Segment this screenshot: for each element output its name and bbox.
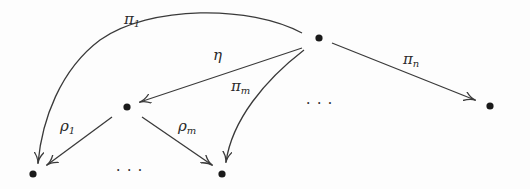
label-pim: πm [231, 79, 250, 96]
label-pi1-base: π [124, 10, 134, 28]
label-rho1-sub: 1 [69, 125, 75, 136]
node-mid [123, 103, 130, 110]
label-rhom-base: ρ [178, 117, 187, 135]
label-pim-sub: m [241, 85, 250, 96]
node-top [315, 34, 322, 41]
label-pi1-sub: 1 [134, 18, 140, 29]
label-pin-sub: n [413, 58, 419, 69]
label-rhom-sub: m [187, 125, 196, 136]
ellipsis-middle-row: · · · [306, 96, 333, 110]
node-bottom-mid [218, 170, 225, 177]
edge-pi1-arrow [38, 13, 302, 163]
label-eta-base: η [213, 46, 222, 64]
label-rhom: ρm [178, 119, 196, 136]
label-rho1-base: ρ [60, 117, 69, 135]
node-right [486, 102, 493, 109]
label-eta: η [213, 48, 222, 63]
label-pi1: π1 [124, 12, 140, 29]
ellipsis-bottom-row: · · · [116, 163, 143, 177]
diagram-graphics [0, 0, 530, 189]
label-pim-base: π [231, 77, 241, 95]
label-pin: πn [403, 52, 419, 69]
label-rho1: ρ1 [60, 119, 75, 136]
label-pin-base: π [403, 50, 413, 68]
edge-rho1-arrow [47, 117, 112, 165]
edge-rhom-arrow [142, 117, 212, 165]
diagram-canvas: π1 η πm πn ρ1 ρm · · · · · · [0, 0, 530, 189]
node-bottom-left [29, 170, 36, 177]
edge-pim-arrow [226, 50, 304, 162]
